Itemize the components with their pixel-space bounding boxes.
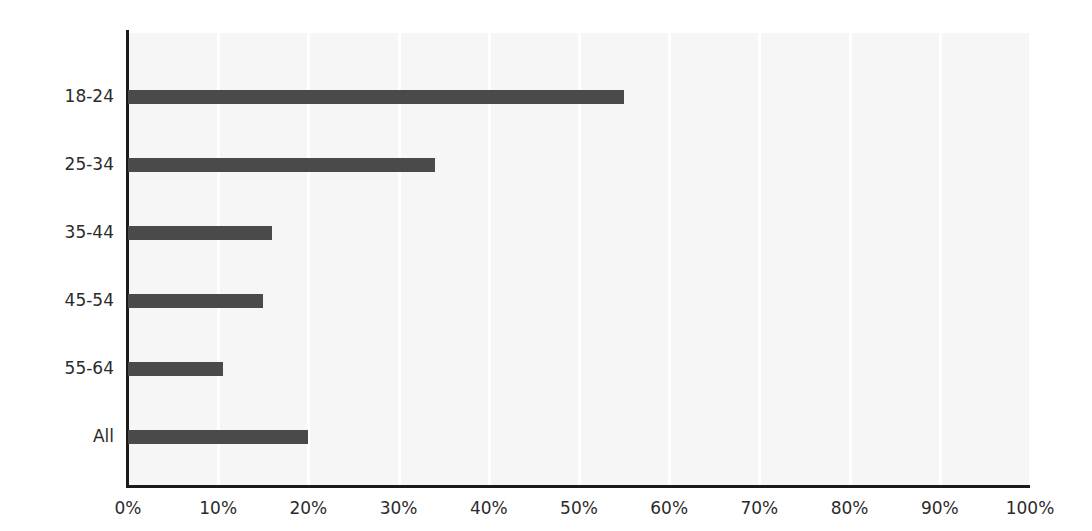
bar-chart: 18-2425-3435-4445-5455-64All 0%10%20%30%… [0, 0, 1092, 531]
y-axis-tick-label: 18-24 [0, 86, 114, 106]
gridline [758, 33, 761, 485]
x-axis-tick-label: 80% [831, 498, 869, 518]
x-axis-tick-label: 100% [1006, 498, 1055, 518]
x-axis-spine [126, 485, 1030, 488]
bar [128, 430, 308, 444]
y-axis-tick-label: 25-34 [0, 154, 114, 174]
bar [128, 294, 263, 308]
x-axis-tick-label: 20% [289, 498, 327, 518]
x-axis-tick-label: 90% [921, 498, 959, 518]
y-axis-tick-label: 55-64 [0, 358, 114, 378]
y-axis-tick-label: 45-54 [0, 290, 114, 310]
x-axis-tick-label: 0% [115, 498, 142, 518]
x-axis-tick-label: 30% [380, 498, 418, 518]
y-axis-tick-label: All [0, 426, 114, 446]
gridline [939, 33, 942, 485]
bar [128, 362, 223, 376]
y-axis-tick-label: 35-44 [0, 222, 114, 242]
x-axis-tick-label: 40% [470, 498, 508, 518]
bar [128, 90, 624, 104]
bar [128, 226, 272, 240]
x-axis-tick-label: 50% [560, 498, 598, 518]
x-axis-tick-label: 10% [199, 498, 237, 518]
gridline [668, 33, 671, 485]
x-axis-tick-label: 70% [740, 498, 778, 518]
gridline [1029, 33, 1032, 485]
gridline [849, 33, 852, 485]
x-axis-tick-label: 60% [650, 498, 688, 518]
bar [128, 158, 435, 172]
